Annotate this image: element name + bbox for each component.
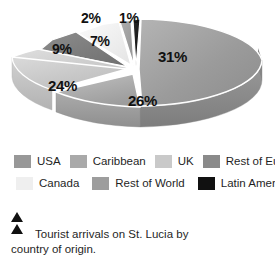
legend-label: USA [37, 156, 61, 168]
legend-swatch-icon [92, 177, 109, 190]
slice-label-canada: 7% [90, 34, 110, 48]
triangle-marker-stack [11, 212, 25, 236]
legend-swatch-icon [70, 155, 87, 168]
legend-swatch-icon [155, 155, 172, 168]
legend-label: Latin America [221, 178, 275, 190]
slice-label-rest-of-europe: 9% [52, 42, 72, 56]
slice-label-rest-of-world: 2% [81, 11, 101, 25]
legend-swatch-icon [14, 155, 31, 168]
pie-chart: 31% 26% 24% 9% 7% 2% 1% [0, 0, 275, 150]
legend-item-rest-of-world: Rest of World [92, 177, 184, 190]
legend-swatch-icon [198, 177, 215, 190]
legend-label: Canada [39, 178, 79, 190]
legend-label: UK [178, 156, 194, 168]
legend-item-caribbean: Caribbean [70, 155, 146, 168]
legend-row: USA Caribbean UK Rest of Europe [14, 152, 272, 171]
legend-item-uk: UK [155, 155, 194, 168]
legend-item-latin-america: Latin America [198, 177, 275, 190]
triangle-up-icon [11, 224, 23, 234]
triangle-up-icon [11, 212, 23, 222]
slice-label-latin-america: 1% [119, 11, 139, 25]
legend-item-canada: Canada [16, 177, 79, 190]
slice-label-caribbean: 26% [128, 93, 157, 108]
legend-swatch-icon [203, 155, 220, 168]
legend-label: Rest of World [115, 178, 184, 190]
legend-swatch-icon [16, 177, 33, 190]
legend-label: Rest of Europe [226, 156, 275, 168]
legend-item-usa: USA [14, 155, 61, 168]
chart-legend: USA Caribbean UK Rest of Europe Canada R… [14, 152, 272, 196]
caption-line-1: Tourist arrivals on St. Lucia by [11, 227, 273, 242]
figure-caption: Tourist arrivals on St. Lucia by country… [11, 212, 273, 257]
caption-line-2: country of origin. [11, 242, 273, 257]
legend-row: Canada Rest of World Latin America [14, 174, 272, 193]
legend-label: Caribbean [93, 156, 146, 168]
legend-item-rest-of-europe: Rest of Europe [203, 155, 275, 168]
slice-label-uk: 24% [48, 78, 77, 93]
slice-label-usa: 31% [158, 49, 187, 64]
